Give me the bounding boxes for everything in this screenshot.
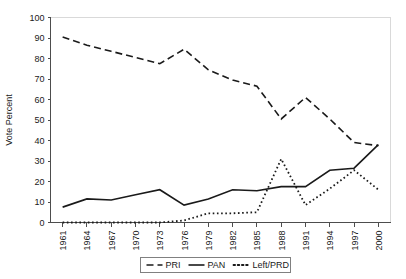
series-line-pri — [63, 37, 379, 146]
plot-frame — [51, 18, 391, 223]
y-tick-label: 50 — [34, 115, 44, 125]
x-tick-label: 1976 — [180, 231, 190, 251]
vote-percent-line-chart: 0102030405060708090100Vote Percent196119… — [0, 0, 406, 279]
chart-canvas: 0102030405060708090100Vote Percent196119… — [0, 0, 406, 279]
y-tick-label: 40 — [34, 136, 44, 146]
y-axis-title: Vote Percent — [4, 94, 14, 146]
y-tick-label: 0 — [39, 218, 44, 228]
legend-label: PRI — [166, 260, 181, 270]
y-tick-label: 80 — [34, 54, 44, 64]
x-tick-label: 1970 — [131, 231, 141, 251]
x-tick-label: 1985 — [252, 231, 262, 251]
y-tick-label: 10 — [34, 197, 44, 207]
y-tick-label: 70 — [34, 74, 44, 84]
y-tick-label: 90 — [34, 33, 44, 43]
x-tick-label: 1961 — [58, 231, 68, 251]
x-tick-label: 1997 — [350, 231, 360, 251]
x-tick-label: 1979 — [204, 231, 214, 251]
x-tick-label: 1988 — [277, 231, 287, 251]
y-tick-label: 60 — [34, 95, 44, 105]
x-tick-label: 2000 — [374, 231, 384, 251]
x-tick-label: 1967 — [107, 231, 117, 251]
legend-label: Left/PRD — [253, 260, 290, 270]
series-line-left-prd — [63, 159, 379, 223]
y-tick-label: 30 — [34, 156, 44, 166]
x-tick-label: 1964 — [82, 231, 92, 251]
y-tick-label: 100 — [29, 13, 44, 23]
x-tick-label: 1994 — [325, 231, 335, 251]
legend-label: PAN — [208, 260, 226, 270]
x-tick-label: 1982 — [228, 231, 238, 251]
x-tick-label: 1991 — [301, 231, 311, 251]
y-tick-label: 20 — [34, 177, 44, 187]
series-line-pan — [63, 145, 379, 208]
x-tick-label: 1973 — [155, 231, 165, 251]
